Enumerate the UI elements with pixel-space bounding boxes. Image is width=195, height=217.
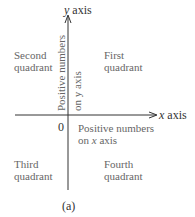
third-quadrant-line2: quadrant xyxy=(14,170,52,182)
coordinate-plane-diagram: y axis x axis 0 Second quadrant First qu… xyxy=(0,0,195,217)
y-axis-label: y axis xyxy=(64,4,92,17)
figure-caption: (a) xyxy=(62,199,75,214)
second-quadrant-label: Second quadrant xyxy=(14,49,52,73)
y-positive-annotation-line2: on y axis xyxy=(71,71,83,111)
second-quadrant-line1: Second xyxy=(14,49,52,61)
first-quadrant-label: First quadrant xyxy=(104,49,142,73)
x-positive-suffix: axis xyxy=(97,134,117,146)
y-axis-word: axis xyxy=(69,3,91,17)
third-quadrant-line1: Third xyxy=(14,158,52,170)
x-positive-annotation: Positive numbers on x axis xyxy=(78,122,154,146)
x-positive-prefix: on xyxy=(78,134,92,146)
first-quadrant-line1: First xyxy=(104,49,142,61)
third-quadrant-label: Third quadrant xyxy=(14,158,52,182)
x-axis-word: axis xyxy=(164,108,186,122)
x-positive-annotation-line1: Positive numbers xyxy=(78,122,154,134)
y-positive-annotation-line1: Positive numbers xyxy=(55,35,67,111)
fourth-quadrant-label: Fourth quadrant xyxy=(104,158,142,182)
fourth-quadrant-line2: quadrant xyxy=(104,170,142,182)
fourth-quadrant-line1: Fourth xyxy=(104,158,142,170)
second-quadrant-line2: quadrant xyxy=(14,61,52,73)
x-positive-annotation-line2: on x axis xyxy=(78,134,154,146)
first-quadrant-line2: quadrant xyxy=(104,61,142,73)
x-axis-label: x axis xyxy=(159,109,187,122)
origin-label: 0 xyxy=(58,120,64,135)
